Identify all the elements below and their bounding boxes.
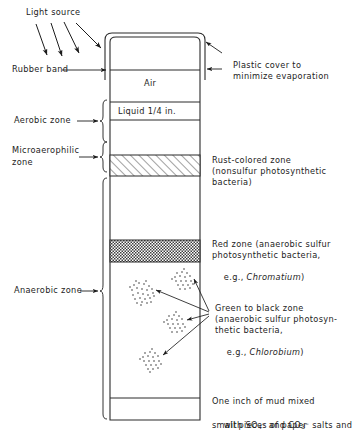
microaerophilic-zone-label-line2: zone: [12, 157, 33, 168]
aerobic-zone-label: Aerobic zone: [14, 115, 71, 126]
green-zone-label-line1: Green to black zone: [215, 303, 304, 314]
rubber-band-label: Rubber band: [12, 64, 68, 75]
rust-zone-label-line2: (nonsulfur photosynthetic: [212, 166, 326, 177]
green-zone-eg-suffix: ): [300, 347, 304, 357]
green-zone-label-line2: (anaerobic sulfur photosyn-: [215, 314, 337, 325]
red-zone-band: [110, 240, 200, 262]
plastic-cover-label-line2: minimize evaporation: [233, 71, 329, 82]
light-source-label: Light source: [26, 7, 80, 18]
genus-chromatium: Chromatium: [247, 272, 301, 282]
green-zone-label-line4: e.g., Chlorobium): [215, 336, 304, 368]
green-zone-label-line3: thetic bacteria,: [215, 325, 283, 336]
red-zone-label-line2: photosynthetic bacteria,: [212, 250, 321, 261]
green-zone-eg-prefix: e.g.,: [227, 347, 250, 357]
genus-chlorobium: Chlorobium: [250, 347, 301, 357]
plastic-cover-label-line1: Plastic cover to: [233, 60, 301, 71]
red-zone-label-line3: e.g., Chromatium): [212, 261, 305, 293]
mud-label-line3: small pieces of paper: [212, 420, 307, 431]
liquid-label: Liquid 1/4 in.: [118, 106, 176, 117]
mud-salts-suffix: salts and: [309, 420, 352, 430]
red-zone-label-line1: Red zone (anaerobic sulfur: [212, 239, 331, 250]
air-label: Air: [144, 78, 156, 89]
red-zone-eg-suffix: ): [301, 272, 305, 282]
rust-zone-label-line3: bacteria): [212, 177, 252, 188]
mud-label-line1: One inch of mud mixed: [212, 396, 315, 407]
anaerobic-zone-label: Anaerobic zone: [14, 285, 82, 296]
jar-outline: [110, 37, 200, 420]
rust-zone-label-line1: Rust-colored zone: [212, 155, 291, 166]
rust-colored-zone-band: [110, 155, 200, 176]
microaerophilic-zone-label-line1: Microaerophilic: [12, 145, 79, 156]
red-zone-eg-prefix: e.g.,: [224, 272, 247, 282]
